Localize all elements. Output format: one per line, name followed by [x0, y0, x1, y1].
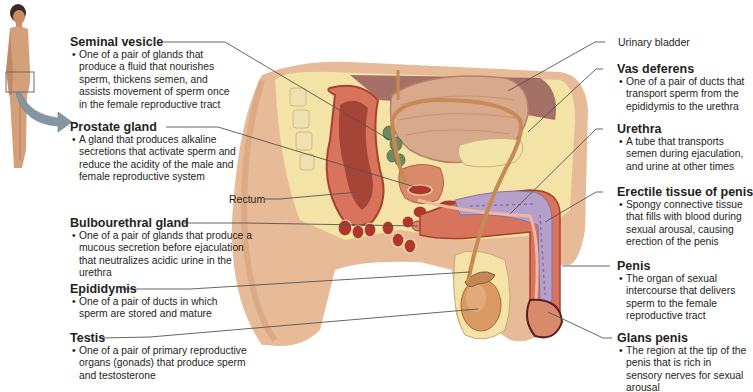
label-seminal-vesicle: Seminal vesicle One of a pair of glands … — [70, 35, 240, 111]
label-description: One of a pair of primary reproductive or… — [70, 345, 250, 382]
label-title: Glans penis — [617, 331, 748, 345]
label-testis: Testis One of a pair of primary reproduc… — [70, 331, 250, 382]
label-prostate-gland: Prostate gland A gland that produces alk… — [70, 120, 245, 184]
label-description: The region at the tip of the penis that … — [617, 345, 748, 392]
label-title: Bulbourethral gland — [70, 216, 260, 230]
label-erectile-tissue: Erectile tissue of penis Spongy connecti… — [617, 185, 748, 249]
prostate-shape — [399, 164, 444, 203]
label-urinary-bladder: Urinary bladder — [618, 36, 690, 48]
label-title: Prostate gland — [70, 120, 245, 134]
label-description: A tube that transports semen during ejac… — [617, 136, 748, 173]
label-title: Urethra — [617, 122, 748, 136]
label-description: The organ of sexual intercourse that del… — [617, 273, 748, 323]
label-penis: Penis The organ of sexual intercourse th… — [617, 259, 748, 323]
locator-human-figure-icon — [6, 4, 30, 168]
label-title: Penis — [617, 259, 748, 273]
label-vas-deferens: Vas deferens One of a pair of ducts that… — [617, 62, 748, 113]
label-description: One of a pair of glands that produce a m… — [70, 230, 260, 280]
label-title: Erectile tissue of penis — [617, 185, 748, 199]
label-description: Spongy connective tissue that fills with… — [617, 199, 748, 249]
label-bulbourethral-gland: Bulbourethral gland One of a pair of gla… — [70, 216, 260, 280]
label-description: A gland that produces alkaline secretion… — [70, 134, 245, 184]
label-title: Seminal vesicle — [70, 35, 240, 49]
label-description: One of a pair of ducts in which sperm ar… — [70, 296, 240, 321]
label-description: One of a pair of ducts that transport sp… — [617, 76, 748, 113]
label-title: Epididymis — [70, 282, 240, 296]
label-description: One of a pair of glands that produce a f… — [70, 49, 240, 111]
label-urethra: Urethra A tube that transports semen dur… — [617, 122, 748, 173]
label-title: Vas deferens — [617, 62, 748, 76]
label-glans-penis: Glans penis The region at the tip of the… — [617, 331, 748, 392]
label-title: Testis — [70, 331, 250, 345]
label-rectum: Rectum — [229, 193, 265, 205]
label-epididymis: Epididymis One of a pair of ducts in whi… — [70, 282, 240, 321]
